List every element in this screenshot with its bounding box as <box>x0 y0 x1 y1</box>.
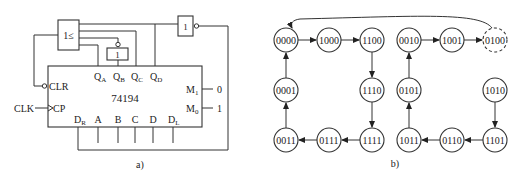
state-node-invalid: 0100 <box>483 28 507 52</box>
clk-label: CLK <box>14 103 35 114</box>
state-label: 1111 <box>363 135 382 146</box>
state-label: 0011 <box>276 135 296 146</box>
state-node: 0001 <box>274 78 298 102</box>
state-label: 0101 <box>399 85 419 96</box>
not-gate-qb-label: 1 <box>115 50 120 60</box>
state-label: 0001 <box>276 85 296 96</box>
state-node: 1101 <box>483 128 507 152</box>
state-node: 0101 <box>397 78 421 102</box>
chip-label: 74194 <box>111 92 139 104</box>
clr-label: CLR <box>49 81 69 92</box>
wire-qa <box>79 45 98 66</box>
b-label: B <box>115 114 122 125</box>
a-label: A <box>94 114 102 125</box>
not-gate-label: 1 <box>183 22 188 32</box>
state-label: 1011 <box>399 135 419 146</box>
state-label: 0000 <box>276 35 296 46</box>
m1-value: 0 <box>217 84 222 95</box>
state-label: 1001 <box>442 35 462 46</box>
state-label: 1101 <box>485 135 505 146</box>
state-node: 0010 <box>397 28 421 52</box>
state-label: 0010 <box>399 35 419 46</box>
state-node: 1000 <box>317 28 341 52</box>
state-node: 1011 <box>397 128 421 152</box>
state-node: 1001 <box>440 28 464 52</box>
wire-notqb <box>79 38 118 42</box>
state-node: 0110 <box>440 128 464 152</box>
inversion-bubble-icon <box>194 24 198 28</box>
state-label: 1000 <box>319 35 339 46</box>
inversion-bubble-icon <box>116 42 120 46</box>
m0-value: 1 <box>217 103 222 114</box>
cp-label: CP <box>53 103 66 114</box>
state-node: 1110 <box>360 78 384 102</box>
state-label: 1010 <box>485 85 505 96</box>
caption-a: a) <box>136 159 144 171</box>
figure-svg: 74194 1≤ 1 1 0 1 M1 M0 <box>0 0 520 180</box>
state-label: 0111 <box>319 135 338 146</box>
state-node: 1100 <box>360 28 384 52</box>
state-node: 1111 <box>360 128 384 152</box>
d-label: D <box>149 114 156 125</box>
state-label: 1110 <box>362 85 381 96</box>
or-gate-label: 1≤ <box>63 30 74 41</box>
state-node: 0011 <box>274 128 298 152</box>
clr-bubble-icon <box>42 84 46 88</box>
figure: 74194 1≤ 1 1 0 1 M1 M0 <box>0 0 520 180</box>
caption-b: b) <box>391 158 399 170</box>
circuit-diagram: 74194 1≤ 1 1 0 1 M1 M0 <box>14 16 228 171</box>
c-label: C <box>132 114 139 125</box>
state-label: 0110 <box>442 135 462 146</box>
state-node: 0111 <box>317 128 341 152</box>
state-label: 1100 <box>362 35 382 46</box>
state-node: 0000 <box>274 28 298 52</box>
state-node: 1010 <box>483 78 507 102</box>
arrow-0100-0000 <box>291 16 492 28</box>
state-label: 0100 <box>485 35 505 46</box>
state-diagram: 0000 1000 1100 0010 1001 0100 0001 <box>274 16 507 170</box>
